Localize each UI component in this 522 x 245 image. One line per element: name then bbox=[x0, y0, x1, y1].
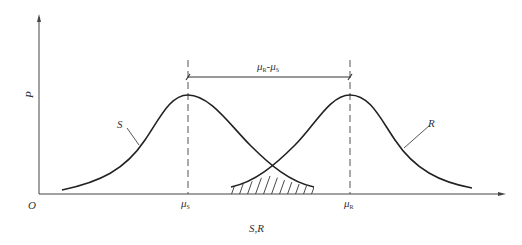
curve-s-label: S bbox=[117, 119, 123, 130]
leader-s bbox=[127, 128, 139, 145]
interference-diagram bbox=[0, 0, 522, 245]
x-axis-arrow-icon bbox=[498, 192, 506, 196]
leader-r bbox=[404, 125, 430, 148]
interference-hatch bbox=[228, 176, 318, 204]
curve-r bbox=[231, 95, 472, 188]
mean-difference-label: μR-μS bbox=[257, 61, 279, 73]
y-axis-arrow-icon bbox=[37, 14, 41, 22]
mean-s-label: μS bbox=[181, 198, 190, 210]
mean-r-label: μR bbox=[344, 198, 354, 210]
curve-r-label: R bbox=[428, 118, 435, 129]
x-axis-label: S,R bbox=[249, 223, 264, 234]
y-axis-label: P bbox=[24, 91, 35, 98]
origin-label: O bbox=[28, 200, 36, 211]
